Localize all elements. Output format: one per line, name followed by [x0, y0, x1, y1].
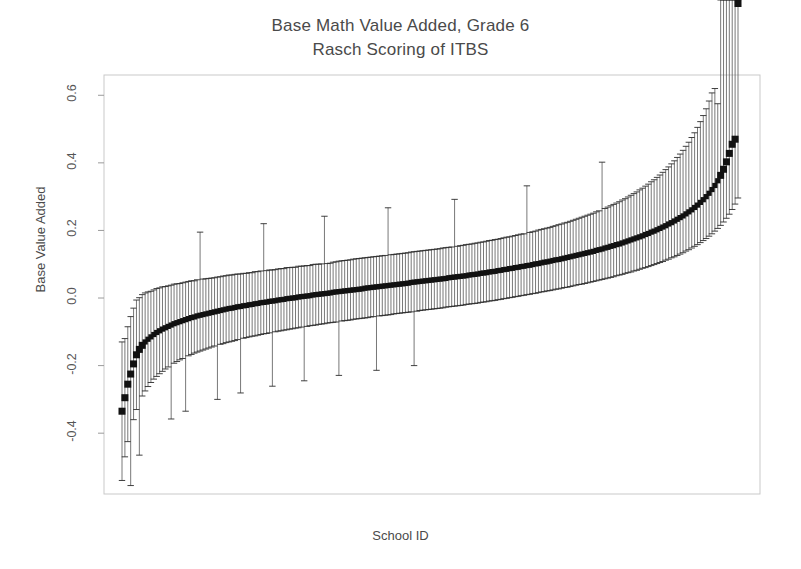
- figure-canvas: Base Math Value Added, Grade 6 Rasch Sco…: [0, 0, 801, 569]
- data-point-marker: [726, 150, 733, 157]
- data-point-marker: [712, 183, 717, 188]
- data-point-marker: [119, 408, 126, 415]
- data-point-marker: [732, 136, 739, 143]
- error-bars: [119, 0, 741, 486]
- y-tick-label: 0.4: [65, 141, 79, 181]
- y-tick-label: 0.2: [65, 208, 79, 248]
- y-tick-label: 0.6: [65, 73, 79, 113]
- data-point-marker: [130, 360, 137, 367]
- axes-frame: [104, 75, 760, 494]
- data-point-marker: [124, 381, 131, 388]
- plot-area: [0, 0, 801, 569]
- data-point-marker: [717, 172, 724, 179]
- data-point-marker: [127, 371, 134, 378]
- y-tick-label: -0.4: [65, 411, 79, 451]
- data-point-marker: [720, 166, 727, 173]
- x-axis-title: School ID: [0, 528, 801, 543]
- axis-ticks: [98, 95, 104, 433]
- plot-border: [104, 75, 760, 494]
- data-point-marker: [715, 178, 720, 183]
- y-axis-title: Base Value Added: [33, 170, 48, 310]
- data-point-marker: [723, 158, 730, 165]
- data-point-marker: [735, 0, 742, 7]
- y-tick-label: 0.0: [65, 276, 79, 316]
- y-tick-label: -0.2: [65, 344, 79, 384]
- data-point-marker: [121, 394, 128, 401]
